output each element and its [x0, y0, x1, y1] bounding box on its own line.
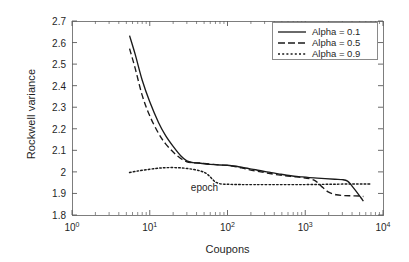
y-tick-label: 2.2 [38, 123, 66, 134]
y-tick-label: 2.7 [38, 16, 66, 27]
legend-label-alpha-0-1: Alpha = 0.1 [312, 26, 360, 37]
legend-label-alpha-0-9: Alpha = 0.9 [312, 48, 360, 59]
x-axis-label: Coupons [72, 243, 383, 255]
legend-swatch-solid [277, 27, 307, 37]
y-tick-label: 2.5 [38, 59, 66, 70]
x-tick-label: 103 [285, 222, 325, 233]
series-line-alpha-0-5 [130, 49, 364, 197]
y-tick-label: 2 [38, 166, 66, 177]
x-tick-label: 102 [208, 222, 248, 233]
y-tick-label: 2.3 [38, 102, 66, 113]
legend-swatch-dotted [277, 49, 307, 59]
y-tick-label: 2.1 [38, 145, 66, 156]
x-tick-label: 100 [52, 222, 92, 233]
y-tick-label: 2.6 [38, 37, 66, 48]
chart-legend: Alpha = 0.1 Alpha = 0.5 Alpha = 0.9 [272, 22, 378, 60]
series-line-alpha-0-1 [130, 36, 364, 202]
y-tick-label: 1.9 [38, 188, 66, 199]
annotation-epoch: epoch [191, 182, 218, 193]
legend-item: Alpha = 0.5 [277, 37, 373, 48]
chart-figure: Rockwell variance Coupons 1.81.922.12.22… [0, 0, 409, 262]
y-tick-label: 2.4 [38, 80, 66, 91]
y-axis-label: Rockwell variance [25, 39, 37, 189]
legend-swatch-dashed [277, 38, 307, 48]
x-tick-label: 104 [363, 222, 403, 233]
legend-item: Alpha = 0.9 [277, 48, 373, 59]
x-tick-label: 101 [130, 222, 170, 233]
legend-item: Alpha = 0.1 [277, 26, 373, 37]
legend-label-alpha-0-5: Alpha = 0.5 [312, 37, 360, 48]
y-tick-label: 1.8 [38, 210, 66, 221]
